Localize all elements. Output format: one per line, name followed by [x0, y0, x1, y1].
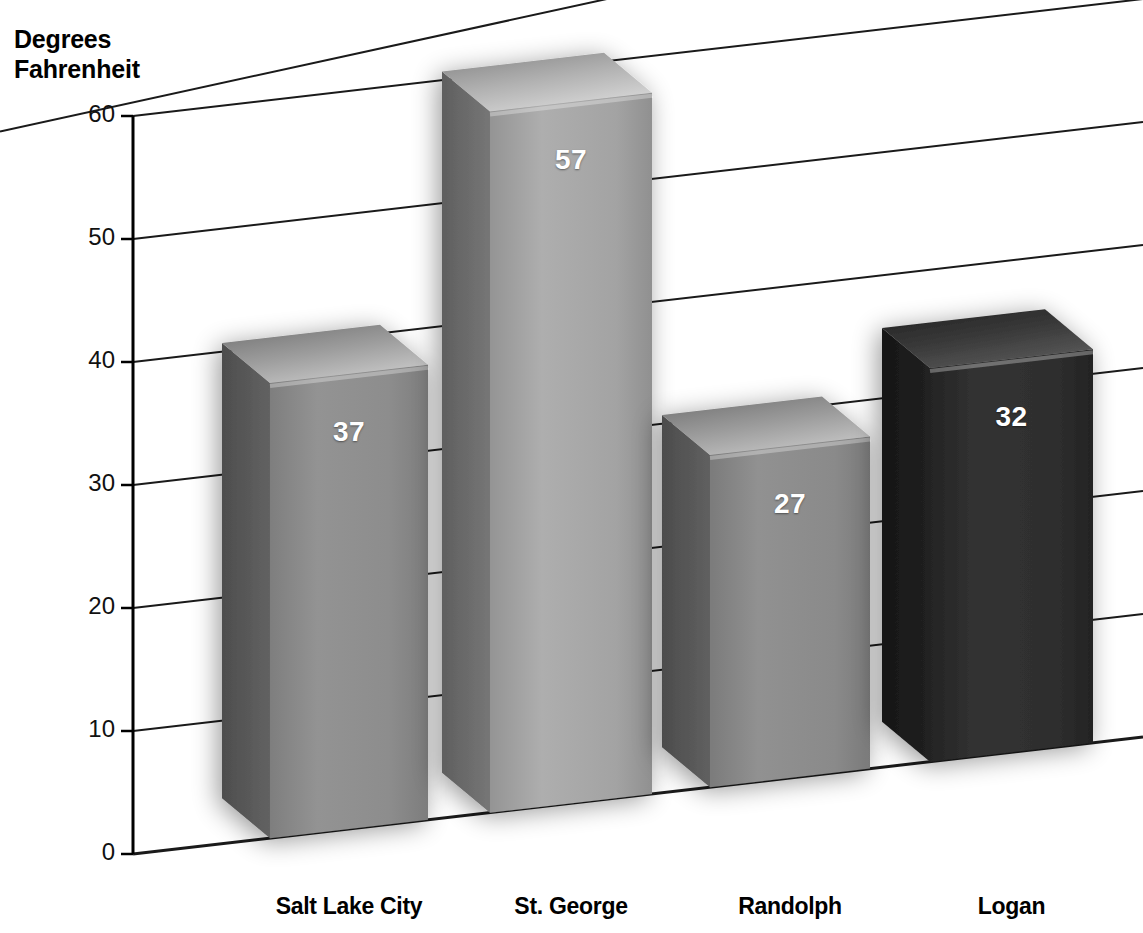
axes: [121, 116, 133, 854]
bar-3: [662, 397, 870, 788]
y-tick-label-50: 50: [55, 223, 115, 251]
x-axis-label-4: Logan: [852, 893, 1143, 920]
y-tick-label-0: 0: [55, 838, 115, 866]
bar-value-label: 27: [730, 488, 850, 520]
bar-value-label: 37: [289, 416, 409, 448]
bar-value-label: 57: [511, 144, 631, 176]
bar-side-face: [662, 415, 710, 787]
bar-side-face: [882, 328, 930, 762]
bar-side-face: [442, 72, 490, 813]
y-tick-label-60: 60: [55, 100, 115, 128]
bar-side-face: [222, 343, 270, 838]
y-tick-label-40: 40: [55, 346, 115, 374]
y-tick-label-20: 20: [55, 592, 115, 620]
chart-canvas: [0, 0, 1143, 933]
bar-4: [882, 309, 1093, 761]
bar-value-label: 32: [952, 401, 1072, 433]
y-tick-label-10: 10: [55, 715, 115, 743]
bar-front-face: [490, 93, 652, 813]
y-tick-label-30: 30: [55, 469, 115, 497]
bar-1: [222, 325, 428, 838]
bar-chart: Degrees Fahrenheit: [0, 0, 1143, 933]
